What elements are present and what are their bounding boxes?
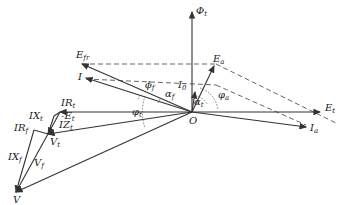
- label-phi-t-angle: φt: [132, 106, 142, 119]
- label-I-0: I0: [177, 79, 187, 92]
- label-alpha-f: αf: [165, 88, 176, 101]
- label-I-a: Ia: [309, 122, 318, 135]
- label-phi-a: φa: [218, 89, 229, 102]
- label-IX-t: IXt: [28, 110, 43, 123]
- label-V-t: Vt: [50, 136, 60, 149]
- label-IX-f: IXf: [7, 151, 23, 164]
- label-IR-f: IRf: [13, 122, 29, 135]
- label-alpha-t: αt: [194, 96, 204, 109]
- label-E-fr: Efr: [75, 49, 90, 62]
- label-V-f: Vf: [34, 157, 45, 170]
- I-a-line: [192, 112, 306, 127]
- label-I: I: [77, 71, 83, 82]
- label-IR-t: IRt: [60, 97, 75, 110]
- label-origin: O: [189, 115, 197, 126]
- label-phi-t: Φt: [196, 5, 207, 18]
- V-line: [16, 112, 192, 192]
- IR-f-line: [34, 130, 48, 134]
- phasor-diagram: Φt Et Ea Efr I Ia I0 O ϕf αf αt φa φt IR…: [0, 0, 350, 205]
- E-fr-line: [82, 64, 192, 112]
- label-V: V: [13, 194, 22, 205]
- label-E-t: Et: [324, 102, 335, 115]
- label-phi-f: ϕf: [145, 79, 156, 92]
